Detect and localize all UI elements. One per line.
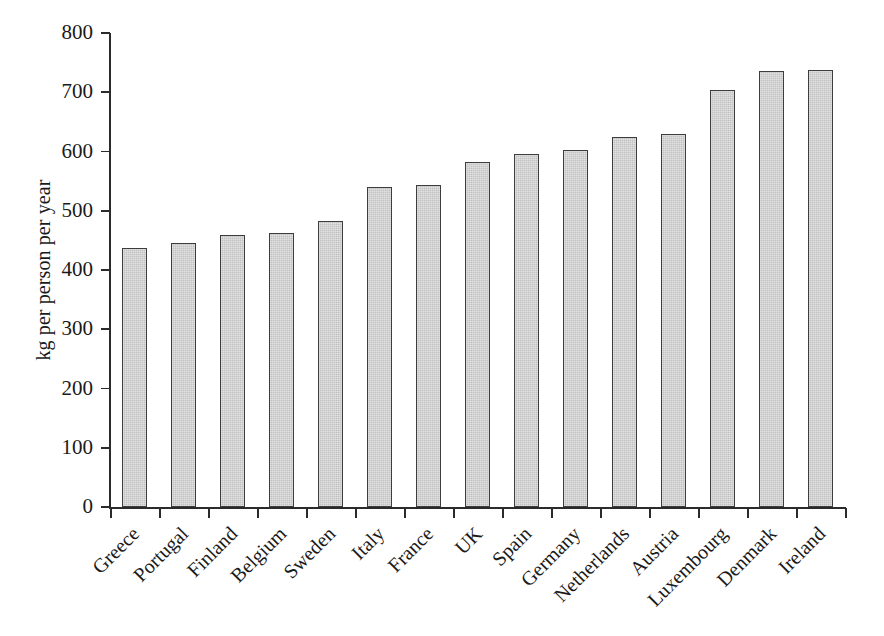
bar (122, 248, 147, 508)
bar (220, 235, 245, 507)
x-axis-tick-mark (257, 508, 259, 518)
x-axis-category-label: France (384, 523, 437, 576)
y-axis-tick-mark (101, 447, 110, 449)
y-axis-tick-mark (101, 328, 110, 330)
bar-chart: kg per person per year 01002003004005006… (0, 0, 884, 636)
bar (171, 243, 196, 507)
y-axis-tick-label: 700 (62, 81, 94, 102)
x-axis-tick-mark (649, 508, 651, 518)
x-axis-tick-mark (306, 508, 308, 518)
bar (759, 71, 784, 507)
y-axis-tick-label: 500 (62, 200, 94, 221)
x-axis-category-label: Sweden (280, 523, 339, 582)
bar (710, 90, 735, 507)
y-axis-tick-label: 0 (83, 496, 94, 517)
x-axis-tick-mark (600, 508, 602, 518)
bar (612, 137, 637, 507)
x-axis-tick-mark (453, 508, 455, 518)
x-axis-tick-mark (110, 508, 112, 518)
bars-container (110, 33, 845, 507)
y-axis-title: kg per person per year (30, 33, 56, 507)
x-axis-category-label: UK (451, 523, 486, 558)
y-axis-tick-mark (101, 269, 110, 271)
x-axis-tick-mark (208, 508, 210, 518)
y-axis-tick-mark (101, 151, 110, 153)
bar (563, 150, 588, 507)
y-axis-tick-mark (101, 388, 110, 390)
x-axis-tick-mark (551, 508, 553, 518)
bar (661, 134, 686, 507)
x-axis-tick-mark (845, 508, 847, 518)
bar (318, 221, 343, 507)
y-axis-tick-mark (101, 32, 110, 34)
x-axis-line (109, 507, 846, 509)
x-axis-tick-mark (747, 508, 749, 518)
bar (808, 70, 833, 507)
y-axis-tick-label: 300 (62, 318, 94, 339)
y-axis-tick-mark (101, 91, 110, 93)
y-axis-tick-label: 200 (62, 378, 94, 399)
bar (416, 185, 441, 507)
x-axis-tick-mark (796, 508, 798, 518)
bar (367, 187, 392, 507)
y-axis-tick-mark (101, 506, 110, 508)
x-axis-tick-mark (159, 508, 161, 518)
x-axis-tick-mark (355, 508, 357, 518)
x-axis-category-label: Ireland (774, 523, 828, 577)
bar (514, 154, 539, 507)
bar (465, 162, 490, 507)
y-axis-tick-label: 100 (62, 437, 94, 458)
y-axis-tick-label: 800 (62, 22, 94, 43)
y-axis-tick-label: 600 (62, 141, 94, 162)
x-axis-tick-mark (698, 508, 700, 518)
x-axis-tick-mark (404, 508, 406, 518)
x-axis-tick-mark (502, 508, 504, 518)
y-axis-tick-mark (101, 210, 110, 212)
y-axis-tick-label: 400 (62, 259, 94, 280)
x-axis-category-label: Italy (348, 523, 388, 563)
bar (269, 233, 294, 507)
